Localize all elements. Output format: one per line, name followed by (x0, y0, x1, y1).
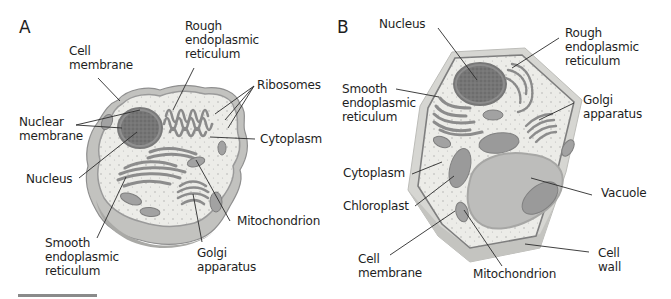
label-cytoplasm-b: Cytoplasm (343, 166, 405, 180)
label-rough-er-b: Rough endoplasmic reticulum (565, 26, 639, 68)
label-smooth-er-b: Smooth endoplasmic reticulum (342, 82, 416, 124)
label-nucleus-b: Nucleus (379, 17, 425, 31)
label-golgi-b: Golgi apparatus (583, 93, 642, 121)
label-nuclear-membrane-a: Nuclear membrane (19, 115, 83, 143)
label-cell-membrane-a: Cell membrane (69, 44, 133, 72)
label-chloroplast-b: Chloroplast (343, 199, 409, 213)
scale-bar (18, 294, 97, 297)
plant-cell (408, 48, 582, 262)
label-ribosomes-a: Ribosomes (257, 78, 321, 92)
label-smooth-er-a: Smooth endoplasmic reticulum (45, 236, 119, 278)
label-mitochondrion-b: Mitochondrion (473, 267, 556, 281)
label-rough-er-a: Rough endoplasmic reticulum (185, 19, 259, 61)
plant-nucleus (457, 66, 503, 102)
label-mitochondrion-a: Mitochondrion (237, 214, 320, 228)
label-golgi-a: Golgi apparatus (197, 246, 256, 274)
label-nucleus-a: Nucleus (26, 172, 72, 186)
label-cytoplasm-a: Cytoplasm (260, 132, 322, 146)
label-cell-membrane-b: Cell membrane (358, 252, 422, 280)
animal-cell (86, 85, 247, 248)
label-cell-wall-b: Cell wall (598, 246, 621, 274)
panel-letter-b: B (337, 18, 349, 36)
panel-letter-a: A (19, 18, 31, 36)
label-vacuole-b: Vacuole (601, 186, 647, 200)
